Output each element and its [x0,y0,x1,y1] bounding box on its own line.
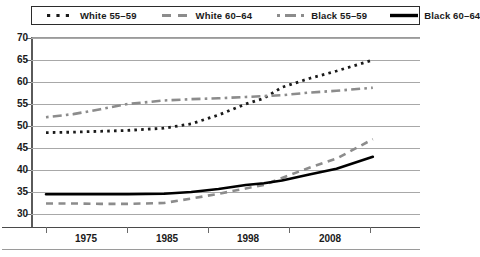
x-tick-mark [46,227,47,233]
x-axis-label: 2008 [305,234,355,244]
legend-swatch-solid-icon [389,10,419,21]
chart-legend: White 55–59 White 60–64 Black 55–59 Blac… [31,6,420,25]
y-axis-label: 30 [4,209,28,219]
gridline-y [31,148,420,149]
legend-swatch-dotted-icon [45,10,75,21]
x-tick-mark [127,227,128,233]
gridline-y [31,170,420,171]
x-tick-mark [208,227,209,233]
legend-entry-white-60-64: White 60–64 [161,7,253,24]
x-axis-label: 1998 [223,234,273,244]
x-axis-label: 1985 [142,234,192,244]
x-tick-mark [289,227,290,233]
y-axis-label: 45 [4,143,28,153]
legend-swatch-dashed-icon [161,10,191,21]
gridline-y [31,82,420,83]
gridline-y [31,38,420,39]
y-axis-label: 60 [4,77,28,87]
gridline-y [31,192,420,193]
x-tick-mark [370,227,371,233]
gridline-y [31,126,420,127]
y-axis-label: 65 [4,55,28,65]
plot-area [31,37,420,227]
gridline-y [31,214,420,215]
legend-label-black-60-64: Black 60–64 [424,11,480,21]
legend-swatch-dashdot-icon [276,10,306,21]
legend-entry-white-55-59: White 55–59 [45,7,137,24]
x-axis-label: 1975 [61,234,111,244]
y-axis-label: 35 [4,187,28,197]
legend-entry-black-55-59: Black 55–59 [276,7,367,24]
legend-label-white-55-59: White 55–59 [80,11,137,21]
legend-entry-black-60-64: Black 60–64 [389,7,480,24]
y-axis-label: 55 [4,99,28,109]
y-axis-label: 50 [4,121,28,131]
gridline-y [31,104,420,105]
gridline-y [31,60,420,61]
y-axis-label: 40 [4,165,28,175]
legend-label-white-60-64: White 60–64 [196,11,253,21]
legend-label-black-55-59: Black 55–59 [311,11,367,21]
y-axis-label: 70 [4,33,28,43]
